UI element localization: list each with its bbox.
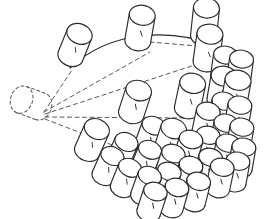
cylinder-c01: [55, 20, 96, 71]
cylinder-fan-drawing: [0, 0, 277, 219]
construction-line-radial-upper: [44, 70, 72, 112]
cylinder-left-edge: [17, 113, 36, 120]
cylinders-group: [55, 0, 258, 219]
construction-line-radial-mid-lower: [45, 117, 190, 118]
cylinder-right-edge: [26, 86, 45, 93]
cylinder-top-ellipse: [6, 83, 36, 117]
cylinder-c02: [123, 3, 157, 53]
figure-canvas: [0, 0, 277, 219]
